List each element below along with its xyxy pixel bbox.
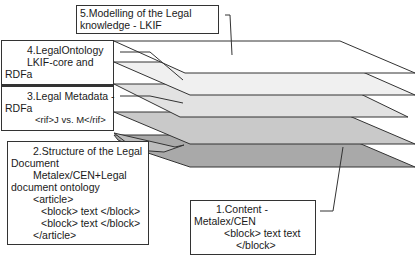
label-box-3-metadata: 3.Legal Metadata - RDFa <rif>J vs. M</ri… (1, 85, 114, 131)
box2-line3: Metalex/CEN+Legal (11, 169, 145, 181)
box5-line2: knowledge - LKIF (80, 19, 215, 31)
box2-line8: </article> (11, 229, 145, 241)
box3-line3: <rif>J vs. M</rif> (5, 114, 110, 126)
label-box-5-modelling: 5.Modelling of the Legal knowledge - LKI… (76, 5, 219, 34)
box1-line3: <block> text text (194, 227, 312, 239)
box1-line2: Metalex/CEN (194, 215, 312, 227)
box3-line2: RDFa (5, 102, 110, 114)
box2-line4: document ontology (11, 181, 145, 193)
label-box-4-ontology: 4.LegalOntology LKIF-core and RDFa (1, 40, 114, 85)
label-box-1-content: 1.Content - Metalex/CEN <block> text tex… (190, 200, 316, 255)
box2-line6: <block> text </block> (11, 205, 145, 217)
label-box-2-structure: 2.Structure of the Legal Document Metale… (7, 141, 149, 245)
box1-line4: </block> (194, 239, 312, 251)
box3-line1: 3.Legal Metadata - (5, 90, 110, 102)
box1-line1: 1.Content - (194, 203, 312, 215)
box2-line7: <block> text </block> (11, 217, 145, 229)
box4-line3: RDFa (5, 68, 110, 80)
box2-line1: 2.Structure of the Legal (11, 145, 145, 157)
box4-line1: 4.LegalOntology (5, 44, 110, 56)
box2-line2: Document (11, 157, 145, 169)
box4-line2: LKIF-core and (5, 56, 110, 68)
box5-line1: 5.Modelling of the Legal (80, 7, 215, 19)
box2-line5: <article> (11, 193, 145, 205)
